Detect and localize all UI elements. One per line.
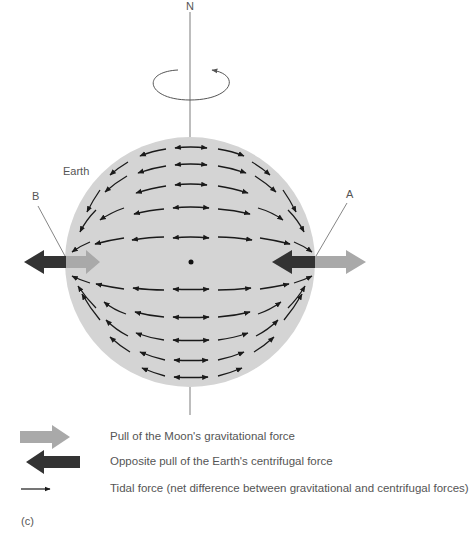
leader-line-b	[38, 206, 65, 256]
legend-centrifugal-text: Opposite pull of the Earth's centrifugal…	[110, 455, 333, 467]
point-b-label: B	[32, 190, 39, 202]
point-a-label: A	[346, 188, 353, 200]
point-a-force-arrows	[272, 250, 366, 274]
leader-line-a	[316, 203, 347, 256]
north-label: N	[186, 0, 194, 12]
moon-gravity-arrow-a	[315, 250, 366, 274]
legend-tidal-text: Tidal force (net difference between grav…	[110, 482, 469, 494]
earth-label: Earth	[63, 165, 89, 177]
panel-label: (c)	[21, 515, 34, 527]
centrifugal-arrow-b	[24, 250, 66, 274]
earth-center-dot	[189, 260, 194, 265]
legend-icons	[20, 425, 80, 489]
legend-moon-gravity-text: Pull of the Moon's gravitational force	[110, 430, 295, 442]
light-gray-right-arrow-icon	[20, 425, 70, 449]
rotation-arrow-icon	[153, 70, 229, 100]
point-b-force-arrows	[24, 250, 100, 274]
dark-left-arrow-icon	[26, 450, 80, 474]
